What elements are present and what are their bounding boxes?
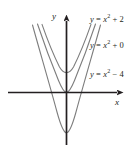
y-axis-label: y bbox=[52, 12, 56, 21]
curve-label-y-eq-x2-plus-2: y = x2 + 2 bbox=[90, 15, 124, 24]
curve-label-y-eq-x2-plus-0: y = x2 + 0 bbox=[90, 41, 124, 50]
x-axis-label: x bbox=[115, 98, 119, 107]
curve-label-y-eq-x2-minus-4: y = x2 − 4 bbox=[90, 70, 124, 79]
parabola-family-figure: y = x2 + 2 y = x2 + 0 y = x2 − 4 y x bbox=[0, 0, 138, 148]
